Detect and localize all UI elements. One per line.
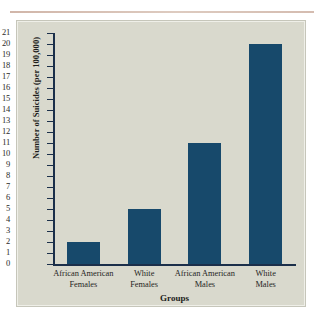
y-axis-tick-label: 12 bbox=[0, 127, 10, 136]
x-axis-category-label: WhiteMales bbox=[235, 269, 296, 290]
x-axis-category-label: WhiteFemales bbox=[114, 269, 175, 290]
y-axis-tick-label: 15 bbox=[0, 94, 10, 103]
bar bbox=[67, 242, 100, 264]
y-axis-tick-label: 4 bbox=[0, 215, 10, 224]
y-axis-tick-label: 13 bbox=[0, 116, 10, 125]
y-axis-tick bbox=[47, 132, 53, 133]
y-axis-tick bbox=[47, 121, 53, 122]
x-axis-category-label: African AmericanMales bbox=[175, 269, 236, 290]
y-axis-tick-label: 16 bbox=[0, 83, 10, 92]
y-axis-tick bbox=[47, 99, 53, 100]
x-axis-label-line: African American bbox=[53, 269, 113, 278]
x-axis-label-line: White bbox=[134, 269, 154, 278]
y-axis-tick-label: 9 bbox=[0, 160, 10, 169]
y-axis-tick bbox=[47, 198, 53, 199]
y-axis-tick bbox=[47, 110, 53, 111]
y-axis-tick bbox=[47, 143, 53, 144]
y-axis-tick bbox=[47, 253, 53, 254]
y-axis-tick-label: 21 bbox=[0, 28, 10, 37]
y-axis-tick-label: 0 bbox=[0, 259, 10, 268]
plot-area: 0123456789101112131415161718192021 Numbe… bbox=[17, 21, 305, 306]
y-axis-tick bbox=[47, 88, 53, 89]
x-axis-label-line: White bbox=[255, 269, 275, 278]
x-axis-label-line: Males bbox=[195, 280, 215, 289]
y-axis-title: Number of Suicides (per 100,000) bbox=[31, 13, 41, 183]
x-axis-label-line: Females bbox=[130, 280, 158, 289]
y-axis-tick bbox=[47, 154, 53, 155]
y-axis-tick-label: 5 bbox=[0, 204, 10, 213]
y-axis-tick bbox=[47, 242, 53, 243]
y-axis-tick bbox=[47, 66, 53, 67]
figure-panel: 0123456789101112131415161718192021 Numbe… bbox=[16, 20, 306, 307]
chart-screenshot: 0123456789101112131415161718192021 Numbe… bbox=[0, 0, 322, 325]
y-axis-tick-label: 8 bbox=[0, 171, 10, 180]
y-axis-tick bbox=[47, 77, 53, 78]
x-axis-label-line: Males bbox=[255, 280, 275, 289]
y-axis-tick bbox=[47, 209, 53, 210]
y-axis-tick-label: 10 bbox=[0, 149, 10, 158]
top-divider-rule bbox=[10, 11, 314, 13]
y-axis-tick-label: 19 bbox=[0, 50, 10, 59]
y-axis-tick bbox=[47, 165, 53, 166]
y-axis-tick bbox=[47, 220, 53, 221]
y-axis-tick-label: 7 bbox=[0, 182, 10, 191]
y-axis-tick bbox=[47, 264, 53, 265]
y-axis-tick bbox=[47, 176, 53, 177]
bar bbox=[128, 209, 161, 264]
x-axis-label-line: African American bbox=[175, 269, 235, 278]
y-axis-tick-label: 14 bbox=[0, 105, 10, 114]
y-axis-line bbox=[53, 33, 55, 265]
x-axis-label-line: Females bbox=[69, 280, 97, 289]
y-axis-tick-label: 18 bbox=[0, 61, 10, 70]
x-axis-category-label: African AmericanFemales bbox=[53, 269, 114, 290]
y-axis-tick bbox=[47, 231, 53, 232]
y-axis-tick-label: 11 bbox=[0, 138, 10, 147]
y-axis-tick bbox=[47, 33, 53, 34]
y-axis-tick bbox=[47, 187, 53, 188]
x-axis-title: Groups bbox=[53, 293, 296, 303]
y-axis-tick-label: 17 bbox=[0, 72, 10, 81]
y-axis-tick-label: 2 bbox=[0, 237, 10, 246]
y-axis-tick-label: 1 bbox=[0, 248, 10, 257]
x-axis-line bbox=[53, 264, 296, 266]
y-axis-tick-label: 20 bbox=[0, 39, 10, 48]
y-axis-tick bbox=[47, 55, 53, 56]
bar bbox=[249, 44, 282, 264]
y-axis-tick-label: 6 bbox=[0, 193, 10, 202]
bar bbox=[188, 143, 221, 264]
y-axis-tick-label: 3 bbox=[0, 226, 10, 235]
y-axis-tick bbox=[47, 44, 53, 45]
